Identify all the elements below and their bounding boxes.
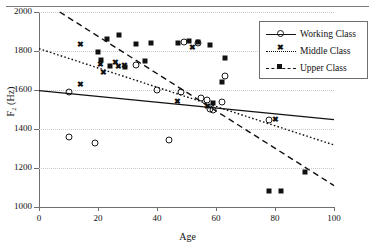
legend-item-working-class[interactable]: Working Class xyxy=(266,26,364,42)
legend-label-middle-class: Middle Class xyxy=(300,44,350,58)
gridline-y xyxy=(39,168,334,169)
data-point xyxy=(98,58,103,63)
data-point: ✖ xyxy=(174,97,181,104)
x-tick xyxy=(157,207,158,211)
x-tick xyxy=(98,207,99,211)
x-tick xyxy=(39,207,40,211)
y-tick-label: 1200 xyxy=(0,163,32,172)
x-tick xyxy=(334,207,335,211)
data-point xyxy=(107,64,112,69)
data-point xyxy=(134,41,139,46)
data-point xyxy=(208,42,213,47)
data-point xyxy=(218,99,225,106)
x-tick-label: 60 xyxy=(203,214,229,223)
legend-symbol-middle-class: ✖ xyxy=(266,43,296,59)
data-point xyxy=(175,40,180,45)
scatter-plot-figure: ✖✖✖✖✖✖✖✖✖✖✖ 020406080100 100012001400160… xyxy=(0,0,375,250)
x-tick-label: 20 xyxy=(85,214,111,223)
data-point xyxy=(222,56,227,61)
x-tick-label: 100 xyxy=(321,214,347,223)
data-point: ✖ xyxy=(189,44,196,51)
y-tick xyxy=(34,207,39,208)
data-point: ✖ xyxy=(77,40,84,47)
x-axis-line xyxy=(39,207,334,208)
data-point: ✖ xyxy=(100,69,107,76)
data-point xyxy=(104,37,109,42)
legend-item-middle-class[interactable]: ✖ Middle Class xyxy=(266,43,364,59)
data-point xyxy=(196,40,201,45)
chart-legend: Working Class ✖ Middle Class Upper Class xyxy=(259,21,368,79)
y-tick xyxy=(34,51,39,52)
data-point xyxy=(133,61,140,68)
data-point xyxy=(143,59,148,64)
y-tick xyxy=(34,129,39,130)
data-point xyxy=(219,80,224,85)
data-point xyxy=(211,100,216,105)
y-tick-label: 2000 xyxy=(0,7,32,16)
data-point xyxy=(92,140,99,147)
data-point xyxy=(302,169,307,174)
data-point xyxy=(187,39,192,44)
legend-symbol-working-class xyxy=(266,26,296,42)
y-tick xyxy=(34,168,39,169)
y-tick xyxy=(34,90,39,91)
data-point xyxy=(116,32,121,37)
data-point: ✖ xyxy=(77,81,84,88)
gridline-y xyxy=(39,129,334,130)
data-point xyxy=(177,89,184,96)
legend-item-upper-class[interactable]: Upper Class xyxy=(266,60,364,76)
gridline-y xyxy=(39,90,334,91)
data-point xyxy=(65,134,72,141)
data-point xyxy=(267,189,272,194)
data-point xyxy=(165,136,172,143)
x-tick-label: 40 xyxy=(144,214,170,223)
page-top-rule xyxy=(6,6,369,7)
x-axis-title: Age xyxy=(0,231,375,242)
x-tick xyxy=(275,207,276,211)
legend-label-working-class: Working Class xyxy=(300,27,356,41)
x-tick-label: 0 xyxy=(26,214,52,223)
data-point: ✖ xyxy=(272,115,279,122)
data-point xyxy=(154,87,161,94)
data-point xyxy=(122,64,127,69)
data-point xyxy=(221,72,228,79)
legend-symbol-upper-class xyxy=(266,60,296,76)
x-tick-label: 80 xyxy=(262,214,288,223)
y-tick-label: 1000 xyxy=(0,202,32,211)
y-tick xyxy=(34,12,39,13)
legend-label-upper-class: Upper Class xyxy=(300,61,347,75)
data-point xyxy=(96,49,101,54)
gridline-y xyxy=(39,12,334,13)
y-axis-title: F₂ (Hz) xyxy=(5,54,16,150)
data-point xyxy=(278,189,283,194)
x-tick xyxy=(216,207,217,211)
data-point xyxy=(149,41,154,46)
data-point xyxy=(65,88,72,95)
